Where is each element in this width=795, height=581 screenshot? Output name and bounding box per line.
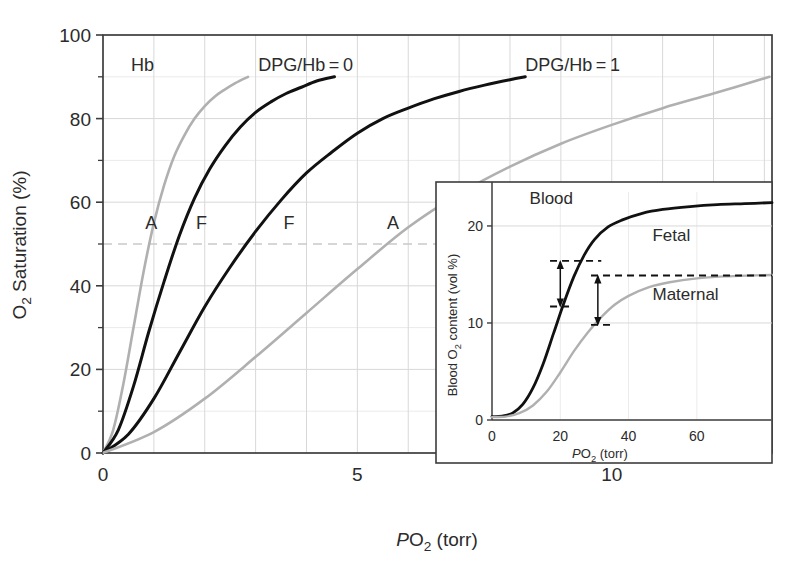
inset-x-tick-label: 0: [488, 428, 496, 444]
y-tick-label: 60: [70, 192, 91, 213]
inset-y-tick-label: 0: [475, 412, 483, 428]
y-tick-label: 40: [70, 276, 91, 297]
x-tick-label: 0: [98, 464, 109, 485]
inset-x-tick-label: 60: [689, 428, 705, 444]
inset-y-tick-label: 20: [467, 218, 483, 234]
dpg-hb-0-label: DPG/Hb = 0: [258, 55, 353, 75]
curve-label-f-left: F: [196, 213, 207, 233]
y-tick-label: 80: [70, 109, 91, 130]
curve-label-a-left: A: [145, 213, 157, 233]
curve-label-f-right: F: [284, 213, 295, 233]
fetal-label: Fetal: [652, 226, 690, 245]
inset-chart: 01020 0204060 BloodFetalMaternal Blood O…: [436, 182, 772, 464]
figure-root: 020406080100 0510 HbDPG/Hb = 0DPG/Hb = 1…: [0, 0, 795, 581]
curve-label-a-right: A: [387, 213, 399, 233]
inset-x-tick-label: 40: [621, 428, 637, 444]
chart-canvas: 020406080100 0510 HbDPG/Hb = 0DPG/Hb = 1…: [0, 0, 795, 581]
inset-x-tick-label: 20: [553, 428, 569, 444]
y-tick-label: 0: [80, 443, 91, 464]
inset-y-tick-label: 10: [467, 315, 483, 331]
x-tick-label: 10: [601, 464, 622, 485]
blood-label: Blood: [530, 189, 573, 208]
x-tick-label: 5: [352, 464, 363, 485]
y-tick-label: 20: [70, 359, 91, 380]
dpg-hb-1-label: DPG/Hb = 1: [525, 55, 620, 75]
maternal-label: Maternal: [652, 285, 718, 304]
y-tick-label: 100: [59, 25, 91, 46]
hb-label: Hb: [131, 55, 154, 75]
